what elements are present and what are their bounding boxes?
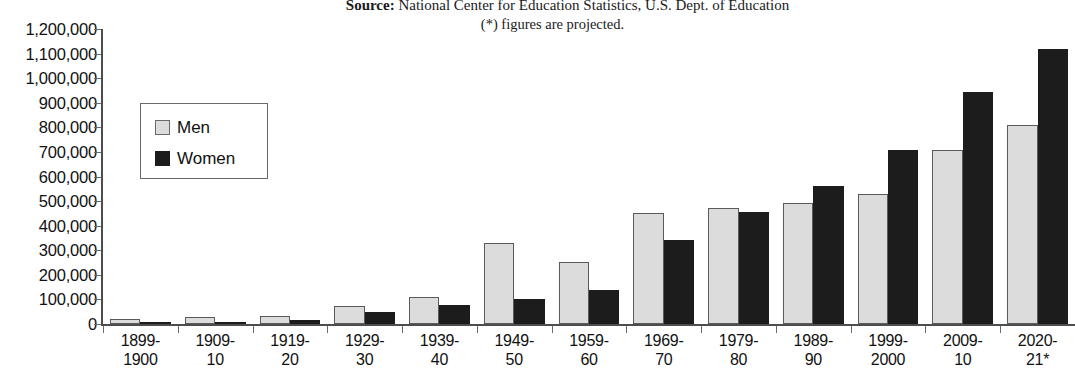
y-tick-label: 300,000 [0,241,97,260]
bar-group [327,29,402,324]
y-tick-label: 100,000 [0,290,97,309]
y-tick-label: 800,000 [0,118,97,137]
x-axis-label-line: 10 [178,350,253,369]
x-axis-label: 1959-60 [552,331,627,369]
bar-women [1038,49,1068,324]
bar-women [514,299,544,324]
bar-women [888,150,918,324]
x-axis-label-line: 1909- [178,331,253,350]
bar-women [664,240,694,324]
legend-label: Women [177,149,235,169]
bar-men [1007,125,1037,324]
x-axis-label-line: 10 [925,350,1000,369]
source-label: Source: [346,0,395,13]
bar-women [963,92,993,324]
bar-women [140,322,170,324]
x-axis-label: 1999-2000 [851,331,926,369]
source-text: National Center for Education Statistics… [395,0,790,13]
x-axis-label: 1899-1900 [103,331,178,369]
y-axis-tick [94,201,101,202]
legend-swatch-icon [155,151,170,166]
y-tick-label: 1,100,000 [0,44,97,63]
bar-group [925,29,1000,324]
x-axis-label-line: 1969- [626,331,701,350]
bar-group [402,29,477,324]
x-axis-label-line: 50 [477,350,552,369]
y-tick-label: 600,000 [0,167,97,186]
x-axis-label-line: 1899- [103,331,178,350]
x-axis-label: 1979-80 [701,331,776,369]
x-axis-label: 1919-20 [253,331,328,369]
y-axis-tick [94,275,101,276]
bar-group [851,29,926,324]
bar-men [484,243,514,324]
y-tick-label: 1,200,000 [0,20,97,39]
bar-group [552,29,627,324]
bar-group [477,29,552,324]
bar-men [409,297,439,324]
source-line: Source: National Center for Education St… [0,0,1075,15]
x-axis-label-line: 2020- [1000,331,1075,350]
y-tick-label: 1,000,000 [0,69,97,88]
y-axis-tick [94,250,101,251]
legend-item-men: Men [155,112,267,143]
x-axis-label: 1949-50 [477,331,552,369]
x-axis-label-line: 1959- [552,331,627,350]
x-axis-label-line: 1949- [477,331,552,350]
x-axis-label-line: 2009- [925,331,1000,350]
x-axis-label-line: 60 [552,350,627,369]
x-axis-label-line: 1919- [253,331,328,350]
bar-women [739,212,769,324]
x-axis-label-line: 1979- [701,331,776,350]
bar-group [776,29,851,324]
x-axis-label: 2020-21* [1000,331,1075,369]
x-axis-label-line: 1939- [402,331,477,350]
y-tick-label: 400,000 [0,216,97,235]
bar-women [813,186,843,324]
bar-men [260,316,290,324]
y-axis-tick [94,127,101,128]
y-axis-tick [94,226,101,227]
y-axis-tick [94,54,101,55]
chart-page: Source: National Center for Education St… [0,0,1075,371]
x-axis-label: 1969-70 [626,331,701,369]
x-axis-labels: 1899-19001909-101919-201929-301939-40194… [103,331,1075,369]
y-tick-label: 200,000 [0,265,97,284]
bar-men [932,150,962,324]
x-axis-label: 2009-10 [925,331,1000,369]
bar-women [215,322,245,324]
x-axis-label: 1909-10 [178,331,253,369]
x-axis-label: 1939-40 [402,331,477,369]
bar-group [701,29,776,324]
y-axis-tick [94,103,101,104]
bar-women [290,320,320,324]
bar-men [708,208,738,324]
x-axis-label-line: 1900 [103,350,178,369]
bar-men [633,213,663,324]
y-axis-tick [94,324,101,325]
x-axis-label-line: 30 [327,350,402,369]
x-axis-label: 1989-90 [776,331,851,369]
x-axis-label-line: 40 [402,350,477,369]
x-axis-label-line: 21* [1000,350,1075,369]
x-axis-label-line: 1989- [776,331,851,350]
y-tick-label: 700,000 [0,142,97,161]
bar-women [365,312,395,324]
bar-men [858,194,888,324]
y-axis-tick [94,177,101,178]
y-tick-label: 900,000 [0,93,97,112]
y-tick-label: 500,000 [0,192,97,211]
legend-swatch-icon [155,120,170,135]
x-axis-label-line: 80 [701,350,776,369]
x-axis-label-line: 20 [253,350,328,369]
bar-men [783,203,813,324]
bar-group [1000,29,1075,324]
y-axis-tick [94,299,101,300]
bar-men [559,262,589,324]
x-axis-line [101,324,1075,326]
bar-women [439,305,469,324]
x-axis-label-line: 1999- [851,331,926,350]
bar-group [626,29,701,324]
bar-men [185,317,215,324]
y-axis-tick [94,29,101,30]
